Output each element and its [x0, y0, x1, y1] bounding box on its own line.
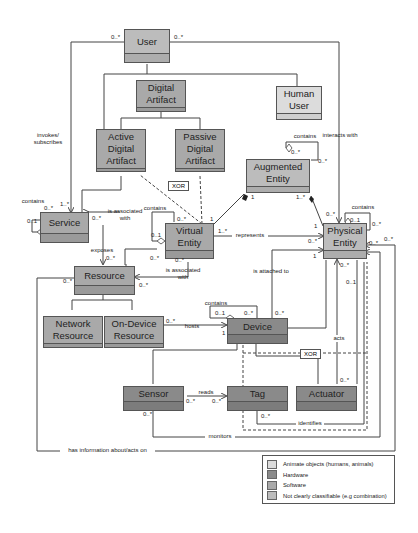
- mult-virtual-top-right: 1: [210, 216, 213, 222]
- mult-virtual-bottom-left: 0..*: [150, 255, 159, 261]
- class-virtual-entity[interactable]: Virtual Entity: [165, 223, 214, 259]
- mult-augmented-left: 1: [251, 194, 254, 200]
- mult-physical-right-b: 0..*: [384, 236, 393, 242]
- class-service[interactable]: Service: [40, 212, 89, 243]
- label-contains-service: contains: [18, 198, 48, 205]
- class-service-name: Service: [41, 213, 88, 233]
- mult-tag-identifies: 0..*: [261, 413, 270, 419]
- label-invokes-subscribes: invokes/ subscribes: [28, 132, 68, 146]
- label-exposes: exposes: [88, 247, 116, 254]
- mult-service-invokes: 1..*: [60, 201, 69, 207]
- class-human-user-attributes: [277, 113, 321, 119]
- class-tag-name: Tag: [228, 387, 287, 401]
- class-resource[interactable]: Resource: [74, 266, 135, 295]
- label-is-attached-to: is attached to: [246, 268, 296, 275]
- legend-swatch-mixed: [267, 491, 277, 500]
- label-service-virtual-associated: is associated with: [105, 208, 145, 222]
- class-physical-entity[interactable]: Physical Entity: [323, 223, 367, 259]
- class-passive-digital-artifact-attributes: [176, 168, 224, 171]
- mult-physical-attached: 1: [313, 253, 316, 259]
- mult-physical-contains-b: 0..*: [372, 221, 381, 227]
- mult-virtual-represents: 1..*: [218, 228, 227, 234]
- class-on-device-resource-name: On-Device Resource: [105, 317, 163, 343]
- legend-label-software: Software: [283, 482, 306, 488]
- mult-virtual-contains: 0..1: [151, 232, 161, 238]
- mult-augmented-right: 1..*: [296, 194, 305, 200]
- legend-item-mixed: Not clearly classifiable (e.g combinatio…: [267, 491, 390, 502]
- class-actuator[interactable]: Actuator: [296, 386, 357, 411]
- label-contains-physical: contains: [348, 204, 378, 211]
- mult-device-hosts: 1: [222, 330, 225, 336]
- iot-domain-model-diagram: User Digital Artifact Human User Active …: [0, 0, 418, 533]
- class-tag[interactable]: Tag: [227, 386, 288, 411]
- class-on-device-resource[interactable]: On-Device Resource: [104, 316, 164, 348]
- mult-sensor-reads: 0..*: [186, 398, 195, 404]
- class-service-attributes: [41, 233, 88, 242]
- class-human-user[interactable]: Human User: [276, 86, 322, 120]
- class-digital-artifact-name: Digital Artifact: [137, 81, 185, 107]
- mult-physical-contains: 0..1: [350, 217, 360, 223]
- legend-item-hardware: Hardware: [267, 470, 390, 481]
- label-acts: acts: [332, 335, 346, 342]
- class-sensor-attributes: [124, 401, 183, 410]
- mult-physical-top-left: 0..*: [326, 211, 335, 217]
- class-network-resource-attributes: [44, 343, 102, 347]
- label-has-information-about: has information about/acts on: [60, 447, 155, 454]
- class-network-resource-name: Network Resource: [44, 317, 102, 343]
- class-user-name: User: [125, 30, 169, 53]
- class-virtual-entity-attributes: [166, 250, 213, 258]
- class-virtual-entity-name: Virtual Entity: [166, 224, 213, 250]
- mult-augmented-contains-b: 0..*: [318, 158, 327, 164]
- class-on-device-resource-attributes: [105, 343, 163, 347]
- mult-resource-left: 0..*: [63, 278, 72, 284]
- class-digital-artifact-attributes: [137, 107, 185, 111]
- xor-constraint-device: XOR: [300, 349, 321, 359]
- mult-service-contains-b: 0..1: [27, 218, 37, 224]
- class-active-digital-artifact-name: Active Digital Artifact: [97, 130, 145, 168]
- mult-tag-reads: 0..*: [212, 398, 221, 404]
- class-device-attributes: [228, 334, 287, 343]
- legend-swatch-software: [267, 481, 277, 490]
- legend-label-animate: Animate objects (humans, animals): [283, 461, 374, 467]
- mult-physical-below-a: 0..*: [340, 262, 349, 268]
- class-device-name: Device: [228, 319, 287, 334]
- legend-swatch-hardware: [267, 470, 277, 479]
- legend-label-mixed: Not clearly classifiable (e.g combinatio…: [283, 493, 387, 499]
- mult-device-attached: 0..*: [275, 310, 284, 316]
- mult-service-assoc: 0..*: [92, 215, 101, 221]
- class-active-digital-artifact[interactable]: Active Digital Artifact: [96, 129, 146, 172]
- mult-actuator-top: 0..*: [340, 377, 349, 383]
- mult-device-contains-b: 0..*: [244, 310, 253, 316]
- class-physical-entity-name: Physical Entity: [324, 224, 366, 250]
- class-actuator-attributes: [297, 401, 356, 410]
- label-identifies: identifies: [296, 420, 324, 427]
- class-tag-attributes: [228, 401, 287, 410]
- legend-item-animate: Animate objects (humans, animals): [267, 459, 390, 470]
- class-digital-artifact[interactable]: Digital Artifact: [136, 80, 186, 112]
- class-passive-digital-artifact[interactable]: Passive Digital Artifact: [175, 129, 225, 172]
- label-hosts: hosts: [182, 323, 202, 330]
- legend-label-hardware: Hardware: [283, 472, 308, 478]
- class-network-resource[interactable]: Network Resource: [43, 316, 103, 348]
- class-augmented-entity[interactable]: Augmented Entity: [246, 159, 310, 193]
- mult-physical-right-a: 0..*: [369, 240, 378, 246]
- class-human-user-name: Human User: [277, 87, 321, 113]
- class-augmented-entity-attributes: [247, 186, 309, 192]
- class-device[interactable]: Device: [227, 318, 288, 344]
- class-sensor[interactable]: Sensor: [123, 386, 184, 411]
- class-physical-entity-attributes: [324, 250, 366, 258]
- mult-virtual-top: 0..*: [177, 216, 186, 222]
- legend: Animate objects (humans, animals) Hardwa…: [262, 455, 395, 504]
- mult-resource-right: 0..*: [139, 282, 148, 288]
- class-passive-digital-artifact-name: Passive Digital Artifact: [176, 130, 224, 168]
- label-reads: reads: [196, 389, 216, 396]
- mult-physical-represents: 0..*: [308, 238, 317, 244]
- label-contains-augmented: contains: [290, 133, 320, 140]
- label-resource-virtual-associated: is associated with: [163, 267, 203, 281]
- label-represents: represents: [232, 232, 268, 239]
- legend-swatch-animate: [267, 460, 277, 469]
- mult-on-device-hosts: 0..*: [166, 318, 175, 324]
- mult-physical-left-top: 1: [314, 223, 317, 229]
- class-user[interactable]: User: [124, 29, 170, 63]
- class-user-attributes: [125, 53, 169, 62]
